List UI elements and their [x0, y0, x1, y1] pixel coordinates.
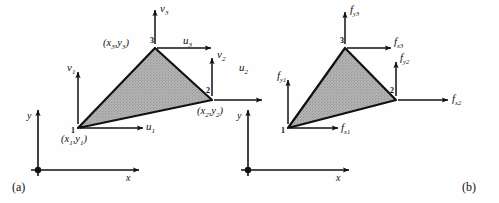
- panel-b-node-1-number: 1: [281, 126, 285, 135]
- panel-a-label-v3: v3: [160, 3, 168, 17]
- panel-b-element-triangle: [288, 48, 396, 128]
- panel-a-node-3-number: 3: [150, 36, 154, 45]
- panel-a-caption: (a): [12, 180, 25, 195]
- panel-a-node-2-coordinates: (x2,y2): [197, 105, 223, 119]
- panel-a-node-3-coordinates: (x3,y3): [103, 37, 129, 51]
- panel-a-origin-dot: [35, 167, 41, 173]
- panel-a-axis-y-label: y: [27, 110, 31, 121]
- panel-a-label-u2: u2: [239, 62, 248, 76]
- panel-a-label-u3: u3: [183, 35, 192, 49]
- panel-a-label-v1: v1: [67, 62, 75, 76]
- panel-a-label-u1: u1: [146, 121, 155, 135]
- panel-b-node-3-number: 3: [340, 36, 344, 45]
- panel-b-graphics: [241, 12, 448, 176]
- panel-b-caption: (b): [462, 180, 476, 195]
- panel-b-label-fy3: fy3: [350, 4, 359, 18]
- panel-a-node-2-number: 2: [206, 86, 210, 95]
- panel-b-axis-y-label: y: [237, 110, 241, 121]
- panel-b-axis-x-label: x: [336, 172, 340, 183]
- panel-b-label-fx2: fx2: [452, 93, 461, 107]
- figure-vector-graphics: [0, 0, 499, 203]
- panel-a-label-v2: v2: [217, 49, 225, 63]
- panel-a-node-1-coordinates: (x1,y1): [61, 133, 87, 147]
- figure-constant-strain-triangle: 1 2 3 (x1,y1) (x2,y2) (x3,y3) u1 v1 u2 v…: [0, 0, 499, 203]
- panel-a-element-triangle: [78, 48, 212, 128]
- panel-b-label-fx3: fx3: [394, 36, 403, 50]
- panel-b-label-fy2: fy2: [400, 52, 409, 66]
- panel-b-origin-dot: [245, 167, 251, 173]
- panel-a-axis-x-label: x: [126, 172, 130, 183]
- panel-b-label-fx1: fx1: [341, 122, 350, 136]
- panel-b-node-2-number: 2: [390, 86, 394, 95]
- panel-b-label-fy1: fy1: [277, 70, 286, 84]
- panel-a-graphics: [31, 10, 262, 176]
